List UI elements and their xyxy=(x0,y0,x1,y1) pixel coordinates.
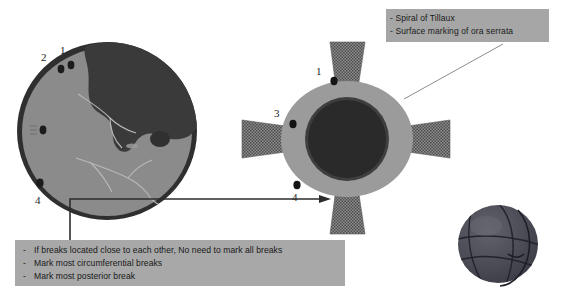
note-line-3: -Mark most posterior break xyxy=(23,270,339,283)
note-bullet: - xyxy=(23,257,34,270)
callout-line-ora-serrata: - Surface marking of ora serrata xyxy=(390,25,545,38)
ora-leader-line xyxy=(400,42,505,102)
callout-line-spiral-of-tillaux: - Spiral of Tillaux xyxy=(390,12,545,25)
fundus-break-label-2: 2 xyxy=(41,52,47,63)
note-line-1: -If breaks located close to each other, … xyxy=(23,244,339,257)
anterior-break-mark-1 xyxy=(330,77,337,85)
fundus-break-label-1: 1 xyxy=(60,45,66,56)
anterior-break-label-3: 3 xyxy=(274,108,280,119)
anterior-break-label-1: 1 xyxy=(316,66,322,77)
break-mark-4 xyxy=(36,179,43,188)
note-bullet: - xyxy=(23,270,34,283)
note-text-2: Mark most circumferential breaks xyxy=(34,258,162,268)
break-mark-1 xyxy=(68,61,75,69)
break-marking-guidance: -If breaks located close to each other, … xyxy=(15,240,345,286)
cornea-disc xyxy=(308,100,386,178)
landmark-callout: - Spiral of Tillaux - Surface marking of… xyxy=(386,9,549,42)
arrow-head xyxy=(319,195,331,203)
note-text-3: Mark most posterior break xyxy=(34,271,135,281)
macula-mark xyxy=(126,143,138,148)
globe-highlight xyxy=(470,216,502,236)
note-text-1: If breaks located close to each other, N… xyxy=(34,245,282,255)
fundus-break-label-4: 4 xyxy=(35,195,41,206)
diagram-canvas: 1 2 4 xyxy=(0,0,561,303)
detachment-lobe xyxy=(150,131,170,147)
three-d-globe-illustration xyxy=(448,196,552,296)
break-arrow-connector xyxy=(66,186,334,244)
note-line-2: -Mark most circumferential breaks xyxy=(23,257,339,270)
break-mark-2 xyxy=(58,65,65,73)
anterior-break-mark-3 xyxy=(289,120,296,128)
break-mark-3 xyxy=(40,126,47,135)
note-bullet: - xyxy=(23,244,34,257)
